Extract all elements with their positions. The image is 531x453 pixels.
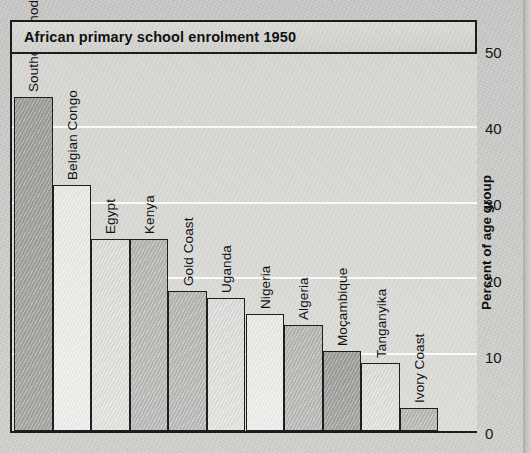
bar-tanganyika[interactable]: Tanganyika (361, 363, 400, 431)
bar-label: Egypt (103, 199, 118, 234)
bar-label: Uganda (219, 245, 234, 293)
bar-kenya[interactable]: Kenya (130, 239, 169, 431)
bar-egypt[interactable]: Egypt (91, 239, 130, 431)
bar-nigeria[interactable]: Nigeria (246, 314, 285, 431)
bar-label: Ivory Coast (412, 334, 427, 403)
bar-mo-ambique[interactable]: Moçambique (323, 351, 362, 431)
bar-series: Southern RhodesiaBelgian CongoEgyptKenya… (12, 54, 477, 431)
bar-label: Kenya (142, 195, 157, 234)
chart-page: Southern RhodesiaBelgian CongoEgyptKenya… (0, 0, 531, 453)
bar-label: Moçambique (335, 268, 350, 346)
chart-title-box: African primary school enrolment 1950 (10, 20, 477, 54)
bar-belgian-congo[interactable]: Belgian Congo (53, 185, 92, 431)
y-axis-title: Percent of age group (474, 52, 500, 433)
bar-uganda[interactable]: Uganda (207, 298, 246, 431)
bar-algeria[interactable]: Algeria (284, 325, 323, 431)
bar-label: Gold Coast (181, 217, 196, 286)
bar-label: Tanganyika (374, 288, 389, 357)
bar-ivory-coast[interactable]: Ivory Coast (400, 408, 439, 431)
bar-gold-coast[interactable]: Gold Coast (168, 291, 207, 431)
bar-southern-rhodesia[interactable]: Southern Rhodesia (14, 97, 53, 431)
bar-label: Belgian Congo (65, 90, 80, 180)
y-axis-title-label: Percent of age group (480, 175, 495, 310)
page-edge (525, 0, 531, 453)
plot-area: Southern RhodesiaBelgian CongoEgyptKenya… (10, 52, 477, 433)
bar-label: Algeria (296, 277, 311, 320)
page-title: African primary school enrolment 1950 (12, 29, 296, 45)
bar-label: Nigeria (258, 265, 273, 308)
